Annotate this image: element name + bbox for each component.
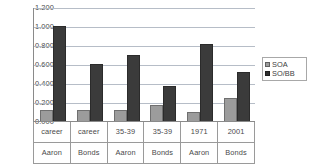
bar-soa — [40, 110, 53, 121]
bar-group — [218, 8, 255, 121]
bar-group — [72, 8, 109, 121]
category-label-player: Bonds — [71, 143, 107, 163]
category-label-player: Aaron — [34, 143, 70, 163]
bar-soa — [114, 110, 127, 121]
legend-swatch-icon — [265, 71, 270, 76]
legend-swatch-icon — [265, 62, 270, 67]
category-label-player: Bonds — [144, 143, 180, 163]
category-label-period: 35-39 — [144, 122, 180, 143]
legend-item[interactable]: SOA — [265, 60, 304, 69]
bar-chart: 1.2001.0000.8000.6000.4000.2000.000 care… — [0, 0, 313, 164]
bar-groups — [35, 8, 255, 121]
category-label-player: Aaron — [181, 143, 217, 163]
bar-soa — [77, 110, 90, 121]
plot-area — [33, 8, 255, 122]
category-label-period: career — [34, 122, 70, 143]
category-label-table: careerAaroncareerBonds35-39Aaron35-39Bon… — [33, 122, 255, 164]
legend-label: SO/BB — [272, 69, 295, 78]
category-column: 35-39Aaron — [108, 122, 145, 164]
bar-so-bb — [237, 72, 250, 121]
category-column: careerBonds — [71, 122, 108, 164]
category-label-period: 1971 — [181, 122, 217, 143]
bar-so-bb — [127, 55, 140, 122]
category-label-player: Aaron — [108, 143, 144, 163]
bar-so-bb — [163, 86, 176, 121]
bar-group — [182, 8, 219, 121]
bar-group — [145, 8, 182, 121]
chart-legend: SOASO/BB — [262, 57, 307, 81]
bar-soa — [150, 105, 163, 121]
bar-so-bb — [90, 64, 103, 121]
bar-group — [35, 8, 72, 121]
category-column: 1971Aaron — [181, 122, 218, 164]
category-label-period: 35-39 — [108, 122, 144, 143]
bar-soa — [224, 98, 237, 121]
category-column: 35-39Bonds — [144, 122, 181, 164]
category-column: 2001Bonds — [218, 122, 255, 164]
category-column: careerAaron — [33, 122, 71, 164]
legend-label: SOA — [272, 60, 288, 69]
bar-so-bb — [200, 44, 213, 121]
legend-item[interactable]: SO/BB — [265, 69, 304, 78]
category-label-period: 2001 — [218, 122, 254, 143]
bar-group — [108, 8, 145, 121]
bar-so-bb — [53, 26, 66, 121]
bar-soa — [187, 112, 200, 122]
category-label-player: Bonds — [218, 143, 254, 163]
category-label-period: career — [71, 122, 107, 143]
